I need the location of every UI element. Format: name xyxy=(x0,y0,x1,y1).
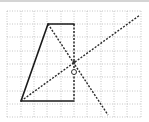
point-o-marker xyxy=(72,70,77,75)
geometry-diagram xyxy=(0,0,149,122)
figure-lines xyxy=(21,15,140,115)
solid-edge xyxy=(21,24,48,101)
diagonal-from-bottom-left xyxy=(21,15,140,101)
intersection-point xyxy=(72,60,75,63)
